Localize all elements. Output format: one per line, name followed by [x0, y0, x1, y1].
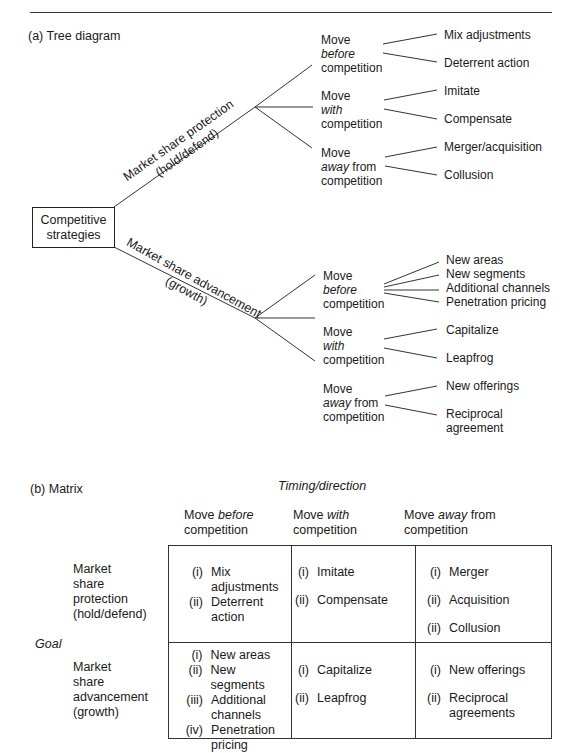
row-label-line: advancement — [73, 690, 148, 705]
move-node-advancement-away: Move away from competition — [323, 382, 384, 424]
item-text: Leapfrog — [317, 691, 366, 706]
item-number: (ii) — [421, 593, 449, 608]
move-line: competition — [323, 410, 384, 424]
move-keyword: before — [323, 283, 357, 297]
matrix-cell-protection-with: (i)Imitate (ii)Compensate — [295, 565, 413, 608]
root-node-competitive-strategies: Competitive strategies — [32, 207, 115, 248]
move-node-protection-with: Move with competition — [321, 89, 382, 131]
item-text: Capitalize — [317, 663, 372, 678]
outcome-leaf: Compensate — [444, 112, 512, 126]
move-node-protection-away: Move away from competition — [321, 146, 382, 188]
move-keyword: away — [321, 160, 349, 174]
outcome-leaf: New offerings — [446, 379, 519, 393]
col-keyword: away — [438, 508, 467, 522]
outcome-leaf: Capitalize — [446, 323, 499, 337]
move-line: Move — [323, 382, 384, 396]
outcome-leaf: Collusion — [444, 168, 493, 182]
item-text: New areas — [210, 648, 289, 663]
matrix-col-header-away: Move away from competition — [404, 508, 496, 538]
matrix-cell-advancement-before: (i)New areas (ii)New segments (iii)Addit… — [175, 648, 289, 753]
move-line: Move — [323, 269, 384, 283]
matrix-cell-protection-before: (i)Mix adjustments (ii)Deterrent action — [181, 565, 289, 625]
matrix-col-header-before: Move before competition — [184, 508, 254, 538]
item-number: (i) — [295, 663, 317, 678]
move-keyword: away — [323, 396, 351, 410]
matrix-row-axis-title: Goal — [35, 637, 61, 651]
outcome-leaf: New areas — [446, 253, 503, 267]
item-number: (ii) — [295, 691, 317, 706]
move-line: competition — [321, 117, 382, 131]
item-text: Merger — [449, 565, 489, 580]
col-keyword: with — [327, 508, 349, 522]
col-line2: competition — [184, 523, 254, 538]
col-pre: Move — [404, 508, 438, 522]
item-number: (i) — [175, 648, 210, 663]
outcome-leaf: Deterrent action — [444, 56, 529, 70]
move-keyword: before — [321, 47, 355, 61]
item-number: (ii) — [421, 691, 449, 721]
root-line-1: Competitive — [41, 213, 107, 228]
move-node-advancement-before: Move before competition — [323, 269, 384, 311]
strategy-matrix: (i)Mix adjustments (ii)Deterrent action … — [168, 545, 552, 739]
col-line2: competition — [404, 523, 496, 538]
item-number: (i) — [421, 565, 449, 580]
item-number: (iii) — [175, 693, 211, 723]
outcome-leaf: Mix adjustments — [444, 28, 531, 42]
matrix-cell-protection-away: (i)Merger (ii)Acquisition (ii)Collusion — [421, 565, 546, 636]
move-suffix: from — [349, 160, 376, 174]
col-post: from — [467, 508, 495, 522]
move-suffix: from — [351, 396, 378, 410]
move-line: competition — [321, 174, 382, 188]
col-pre: Move — [184, 508, 218, 522]
matrix-cell-advancement-away: (i)New offerings (ii)Reciprocal agreemen… — [421, 663, 546, 721]
col-keyword: before — [218, 508, 253, 522]
item-text: Imitate — [317, 565, 355, 580]
item-number: (iv) — [175, 723, 211, 753]
item-text: Compensate — [317, 593, 388, 608]
matrix-row-label-advancement: Market share advancement (growth) — [73, 660, 148, 720]
item-number: (i) — [421, 663, 449, 678]
move-line: competition — [321, 61, 382, 75]
item-number: (ii) — [175, 663, 210, 693]
move-line: Move — [321, 89, 382, 103]
outcome-leaf: Imitate — [444, 84, 480, 98]
item-text: Mix adjustments — [211, 565, 283, 595]
row-label-line: (hold/defend) — [73, 607, 147, 622]
outcome-leaf: Leapfrog — [446, 351, 493, 365]
move-node-advancement-with: Move with competition — [323, 325, 384, 367]
outcome-leaf: Reciprocal agreement — [446, 407, 526, 435]
item-text: Deterrent action — [211, 595, 283, 625]
move-keyword: with — [321, 103, 342, 117]
row-label-line: share — [73, 675, 148, 690]
outcome-leaf: Penetration pricing — [446, 295, 546, 309]
move-keyword: with — [323, 339, 344, 353]
row-label-line: (growth) — [73, 705, 148, 720]
item-number: (i) — [295, 565, 317, 580]
root-line-2: strategies — [41, 228, 107, 243]
move-line: Move — [323, 325, 384, 339]
item-number: (ii) — [181, 595, 211, 625]
row-label-line: protection — [73, 592, 147, 607]
col-line2: competition — [293, 523, 357, 538]
col-pre: Move — [293, 508, 327, 522]
matrix-cell-advancement-with: (i)Capitalize (ii)Leapfrog — [295, 663, 413, 706]
item-text: New offerings — [449, 663, 525, 678]
item-text: Collusion — [449, 621, 500, 636]
item-text: Acquisition — [449, 593, 509, 608]
matrix-section-label: (b) Matrix — [30, 482, 83, 496]
matrix-row-label-protection: Market share protection (hold/defend) — [73, 562, 147, 622]
move-node-protection-before: Move before competition — [321, 33, 382, 75]
item-text: New segments — [210, 663, 289, 693]
move-line: competition — [323, 353, 384, 367]
matrix-divider-h — [169, 642, 551, 643]
item-text: Penetration pricing — [211, 723, 281, 753]
item-text: Reciprocal agreements — [449, 691, 529, 721]
row-label-line: Market — [73, 562, 147, 577]
move-line: Move — [321, 146, 382, 160]
move-line: Move — [321, 33, 382, 47]
row-label-line: Market — [73, 660, 148, 675]
outcome-leaf: New segments — [446, 267, 525, 281]
outcome-leaf: Merger/acquisition — [444, 140, 542, 154]
matrix-column-axis-title: Timing/direction — [278, 479, 366, 493]
move-line: competition — [323, 297, 384, 311]
